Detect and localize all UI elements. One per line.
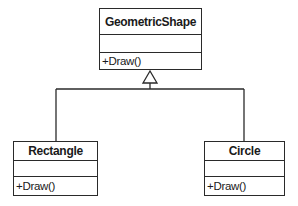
class-circle: Circle +Draw() [204,141,285,196]
class-name: Circle [205,142,284,161]
inheritance-arrowhead-icon [143,71,157,83]
class-name: GeometricShape [100,9,201,35]
class-rectangle: Rectangle +Draw() [13,141,98,196]
attributes-compartment [100,35,201,53]
class-geometricshape: GeometricShape +Draw() [99,8,202,70]
attributes-compartment [14,161,97,177]
class-name: Rectangle [14,142,97,161]
attributes-compartment [205,161,284,177]
method-draw: +Draw() [14,177,97,195]
method-draw: +Draw() [100,53,201,69]
method-draw: +Draw() [205,177,284,195]
